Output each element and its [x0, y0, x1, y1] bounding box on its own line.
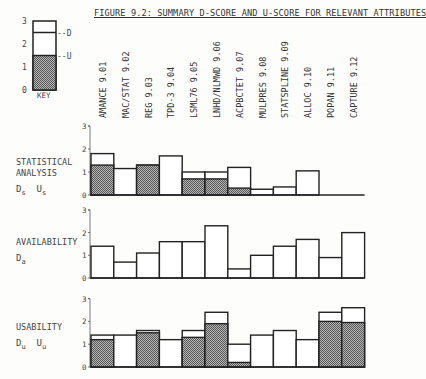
chart-panel: 0123: [82, 122, 365, 200]
category-label: ALLOC 9.10: [301, 28, 313, 118]
panel-label: STATISTICALANALYSISDs Us: [16, 157, 72, 199]
svg-text:3: 3: [82, 122, 87, 131]
chart-panel: 0123: [82, 295, 365, 372]
svg-text:1: 1: [82, 251, 87, 260]
panel-label: AVAILABILITYDa: [16, 237, 77, 268]
svg-text:KEY: KEY: [37, 91, 51, 100]
svg-text:1: 1: [82, 340, 87, 349]
svg-text:--U: --U: [57, 52, 72, 61]
category-label: TPD-3 9.04: [164, 28, 176, 118]
svg-text:0: 0: [22, 86, 27, 95]
svg-text:2: 2: [82, 317, 87, 326]
chart-panel: 0123: [82, 206, 365, 283]
svg-text:2: 2: [82, 229, 87, 238]
category-label: MULPRES 9.08: [256, 28, 268, 118]
svg-text:--D: --D: [57, 29, 72, 38]
svg-text:1: 1: [82, 168, 87, 177]
category-label: LSML76 9.05: [187, 28, 199, 118]
category-label: CAPTURE 9.12: [347, 28, 359, 118]
svg-text:3: 3: [82, 206, 87, 215]
category-label: STATSPLINE 9.09: [278, 28, 290, 118]
svg-text:2: 2: [82, 145, 87, 154]
category-label: LNHD/NLMWD 9.06: [210, 28, 222, 118]
panel-label: USABILITYDu Uu: [16, 322, 62, 353]
svg-text:0: 0: [82, 363, 87, 372]
category-label: AMANCE 9.01: [96, 28, 108, 118]
svg-text:1: 1: [22, 63, 27, 72]
category-label: REG 9.03: [142, 28, 154, 118]
svg-text:3: 3: [22, 17, 27, 26]
category-label: MAC/STAT 9.02: [119, 28, 131, 118]
svg-text:2: 2: [22, 40, 27, 49]
key-legend: 0123 --D --U KEY: [0, 0, 80, 110]
svg-text:0: 0: [82, 274, 87, 283]
figure-title: FIGURE 9.2: SUMMARY D-SCORE AND U-SCORE …: [94, 8, 426, 18]
svg-text:0: 0: [82, 191, 87, 200]
category-label: POPAN 9.11: [324, 28, 336, 118]
category-label: ACPBCTET 9.07: [233, 28, 245, 118]
svg-text:3: 3: [82, 295, 87, 304]
